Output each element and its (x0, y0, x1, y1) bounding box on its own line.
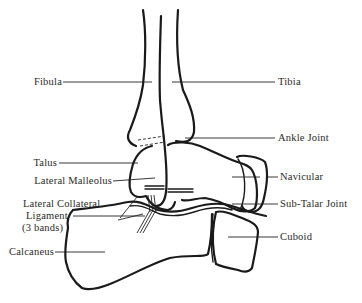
label-fibula: Fibula (0, 76, 62, 88)
label-ankle-joint: Ankle Joint (278, 132, 329, 144)
label-talus: Talus (0, 157, 57, 169)
label-cuboid: Cuboid (280, 231, 312, 243)
label-lateral-collateral-2: Ligament (26, 210, 68, 222)
fibula-bone (128, 10, 163, 146)
ankle-joint-dashes (138, 136, 165, 146)
label-tibia: Tibia (278, 76, 301, 88)
label-sub-talar-joint: Sub-Talar Joint (280, 198, 347, 210)
label-lateral-collateral-3: (3 bands) (22, 222, 63, 234)
label-lateral-malleolus: Lateral Malleolus (0, 175, 112, 187)
cuboid-bone (212, 211, 259, 271)
label-lateral-collateral-1: Lateral Collateral (23, 198, 100, 210)
label-navicular: Navicular (280, 171, 323, 183)
tibia-bone (176, 10, 194, 142)
ankle-diagram (0, 0, 362, 303)
label-calcaneus: Calcaneus (0, 246, 54, 258)
calcaneus-bone (65, 210, 212, 289)
